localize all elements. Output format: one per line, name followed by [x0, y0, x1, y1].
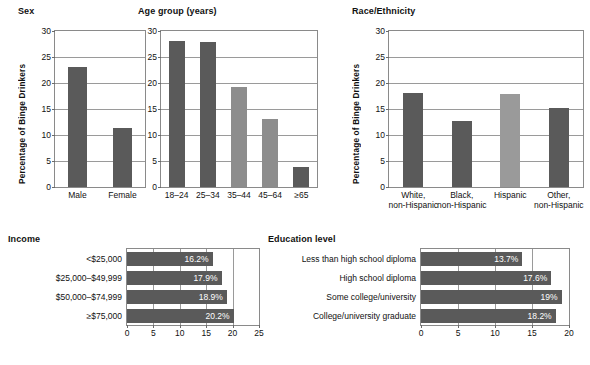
y-axis-tick-mark [386, 57, 389, 58]
y-axis-tick-mark [158, 83, 161, 84]
x-axis-tick-mark [180, 325, 181, 328]
x-axis-tick-label: 15 [201, 328, 210, 338]
y-axis-tick-mark [386, 161, 389, 162]
bar-race-ethnicity-3 [549, 108, 569, 187]
bar-value-label: 18.2% [528, 311, 552, 321]
x-axis-tick-mark [259, 325, 260, 328]
bar-value-label: 16.2% [184, 254, 208, 264]
y-axis-category-label: Less than high school diploma [302, 254, 416, 264]
y-axis-tick-mark [386, 135, 389, 136]
bar-value-label: 17.9% [193, 273, 217, 283]
y-axis-tick-label: 20 [148, 78, 157, 88]
chart-race-ethnicity-y-axis-title: Percentage of Binge Drinkers [352, 34, 361, 184]
x-axis-category-label: 25–34 [196, 190, 220, 200]
chart-sex-y-axis-title: Percentage of Binge Drinkers [18, 34, 27, 184]
x-axis-tick-label: 25 [254, 328, 263, 338]
y-axis-category-label: Some college/university [326, 292, 416, 302]
bar-income-2: 18.9% [127, 290, 227, 304]
bar-race-ethnicity-0 [403, 93, 423, 187]
x-axis-tick-label: 5 [456, 328, 461, 338]
chart-race-ethnicity-plot: 051015202530White,non-HispanicBlack,non-… [388, 30, 584, 188]
x-axis-tick-mark [206, 325, 207, 328]
y-axis-tick-label: 20 [42, 78, 51, 88]
chart-income-title: Income [8, 234, 268, 244]
y-axis-tick-mark [386, 31, 389, 32]
x-axis-category-label: Hispanic [494, 190, 527, 200]
bar-income-3: 20.2% [127, 309, 234, 323]
chart-education-level: Education level 0510152013.7%Less than h… [268, 234, 590, 359]
y-axis-tick-label: 20 [376, 78, 385, 88]
y-axis-tick-label: 10 [42, 130, 51, 140]
y-axis-tick-mark [386, 187, 389, 188]
x-axis-tick-mark [127, 325, 128, 328]
bar-value-label: 17.6% [523, 273, 547, 283]
y-axis-tick-mark [52, 187, 55, 188]
chart-income-plot: 051015202516.2%<$25,00017.9%$25,000–$49,… [126, 248, 260, 326]
bar-value-label: 18.9% [199, 292, 223, 302]
x-axis-category-label: 18–24 [165, 190, 189, 200]
chart-race-ethnicity: Race/Ethnicity Percentage of Binge Drink… [352, 6, 588, 216]
bar-education-level-1: 17.6% [421, 271, 551, 285]
x-axis-category-label: Female [108, 190, 136, 200]
y-axis-tick-label: 30 [376, 26, 385, 36]
chart-sex-title: Sex [18, 6, 148, 16]
chart-race-ethnicity-title: Race/Ethnicity [352, 6, 588, 16]
y-axis-tick-label: 0 [152, 182, 157, 192]
bar-age-group-1 [200, 42, 216, 187]
y-axis-tick-label: 5 [46, 156, 51, 166]
y-axis-tick-label: 25 [148, 52, 157, 62]
x-axis-tick-mark [569, 325, 570, 328]
y-axis-category-label: College/university graduate [313, 311, 416, 321]
y-axis-tick-label: 15 [42, 104, 51, 114]
y-axis-tick-mark [52, 31, 55, 32]
x-axis-tick-mark [233, 325, 234, 328]
x-axis-category-label: ≥65 [294, 190, 308, 200]
y-axis-tick-mark [52, 161, 55, 162]
y-axis-tick-mark [52, 135, 55, 136]
y-axis-tick-label: 15 [148, 104, 157, 114]
x-axis-tick-mark [495, 325, 496, 328]
chart-age-group-title: Age group (years) [138, 6, 328, 16]
bar-education-level-3: 18.2% [421, 309, 556, 323]
y-axis-tick-mark [158, 135, 161, 136]
x-axis-category-label: 35–44 [227, 190, 251, 200]
chart-education-level-title: Education level [268, 234, 590, 244]
bar-education-level-2: 19% [421, 290, 562, 304]
bar-age-group-3 [262, 119, 278, 187]
y-axis-tick-mark [52, 57, 55, 58]
y-axis-tick-label: 0 [380, 182, 385, 192]
x-axis-tick-mark [153, 325, 154, 328]
x-axis-category-label: Black,non-Hispanic [437, 190, 487, 210]
y-axis-category-label: High school diploma [339, 273, 416, 283]
chart-age-group: Age group (years) 05101520253018–2425–34… [138, 6, 328, 216]
x-axis-tick-label: 20 [228, 328, 237, 338]
x-axis-tick-label: 0 [419, 328, 424, 338]
gridline [55, 57, 145, 58]
y-axis-tick-mark [386, 109, 389, 110]
x-axis-tick-label: 5 [151, 328, 156, 338]
bar-age-group-4 [293, 167, 309, 187]
y-axis-tick-mark [386, 83, 389, 84]
bar-sex-1 [113, 128, 132, 187]
y-axis-tick-label: 30 [42, 26, 51, 36]
bar-income-0: 16.2% [127, 252, 213, 266]
bar-sex-0 [68, 67, 87, 187]
y-axis-tick-mark [158, 57, 161, 58]
y-axis-tick-mark [158, 161, 161, 162]
y-axis-tick-mark [158, 109, 161, 110]
y-axis-category-label: $50,000–$74,999 [56, 292, 122, 302]
y-axis-tick-label: 5 [380, 156, 385, 166]
x-axis-category-label: Male [68, 190, 86, 200]
x-axis-tick-mark [532, 325, 533, 328]
x-axis-category-label: White,non-Hispanic [388, 190, 438, 210]
y-axis-tick-label: 10 [148, 130, 157, 140]
chart-income: Income 051015202516.2%<$25,00017.9%$25,0… [8, 234, 268, 359]
y-axis-category-label: <$25,000 [86, 254, 122, 264]
bar-race-ethnicity-2 [500, 94, 520, 187]
x-axis-tick-label: 10 [175, 328, 184, 338]
x-axis-tick-mark [421, 325, 422, 328]
y-axis-tick-label: 25 [376, 52, 385, 62]
bar-education-level-0: 13.7% [421, 252, 522, 266]
y-axis-category-label: $25,000–$49,999 [56, 273, 122, 283]
chart-sex: Sex Percentage of Binge Drinkers 0510152… [18, 6, 148, 216]
